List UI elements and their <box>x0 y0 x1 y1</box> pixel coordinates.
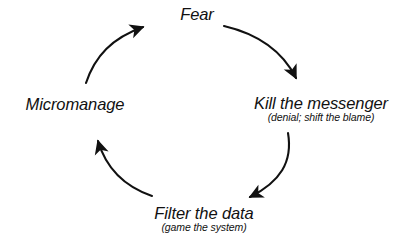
node-micromanage: Micromanage <box>2 96 148 113</box>
node-filter-the-data-title: Filter the data <box>128 205 280 222</box>
arrow-filter-to-micro <box>98 141 152 196</box>
node-fear-title: Fear <box>142 6 252 23</box>
node-filter-the-data: Filter the data (game the system) <box>128 205 280 233</box>
node-filter-the-data-subtitle: (game the system) <box>128 222 280 233</box>
arrow-fear-to-kill <box>224 26 296 78</box>
arrow-micro-to-fear <box>86 27 143 83</box>
node-kill-the-messenger: Kill the messenger (denial; shift the bl… <box>237 95 405 123</box>
node-micromanage-title: Micromanage <box>2 96 148 113</box>
node-kill-the-messenger-title: Kill the messenger <box>237 95 405 112</box>
node-fear: Fear <box>142 6 252 23</box>
arrow-kill-to-filter <box>250 133 289 197</box>
cycle-diagram: Fear Kill the messenger (denial; shift t… <box>0 0 405 250</box>
node-kill-the-messenger-subtitle: (denial; shift the blame) <box>237 112 405 123</box>
